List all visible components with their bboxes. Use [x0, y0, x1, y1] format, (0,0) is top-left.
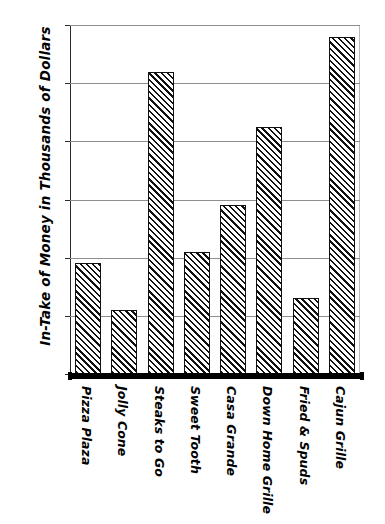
y-tick-mark-40 — [65, 258, 70, 259]
x-category-label-steaks-to-go: Steaks to Go — [152, 386, 167, 524]
gridline-40 — [70, 258, 360, 259]
y-tick-mark-20 — [65, 316, 70, 317]
gridline-60 — [70, 200, 360, 201]
x-axis-left-cap — [68, 372, 72, 380]
x-category-label-pizza-plaza: Pizza Plaza — [79, 386, 94, 524]
gridline-100 — [70, 83, 360, 84]
bar-cajun-grille — [329, 37, 355, 374]
bar-chart: In-Take of Money in Thousands of Dollars… — [0, 0, 385, 524]
y-tick-mark-100 — [65, 83, 70, 84]
y-tick-mark-80 — [65, 141, 70, 142]
bar-steaks-to-go — [148, 72, 174, 374]
bar-pizza-plaza — [75, 263, 101, 374]
bar-jolly-cone — [111, 310, 137, 374]
x-axis-baseline — [68, 373, 364, 379]
x-axis-right-cap — [360, 372, 364, 380]
bar-down-home-grille — [256, 127, 282, 374]
y-axis-title: In-Take of Money in Thousands of Dollars — [37, 21, 53, 351]
y-tick-mark-60 — [65, 200, 70, 201]
x-category-label-sweet-tooth: Sweet Tooth — [188, 386, 203, 524]
y-tick-mark-120 — [65, 25, 70, 26]
plot-area: 020406080100120 — [70, 25, 360, 374]
x-category-label-cajun-grille: Cajun Grille — [333, 386, 348, 524]
x-category-label-casa-grande: Casa Grande — [224, 386, 239, 524]
gridline-120 — [70, 25, 360, 26]
gridline-80 — [70, 141, 360, 142]
bar-fried-spuds — [293, 298, 319, 374]
bar-casa-grande — [220, 205, 246, 374]
x-category-label-down-home-grille: Down Home Grille — [260, 386, 275, 524]
x-category-label-fried-spuds: Fried & Spuds — [297, 386, 312, 524]
x-category-label-jolly-cone: Jolly Cone — [115, 386, 130, 524]
bar-sweet-tooth — [184, 252, 210, 374]
